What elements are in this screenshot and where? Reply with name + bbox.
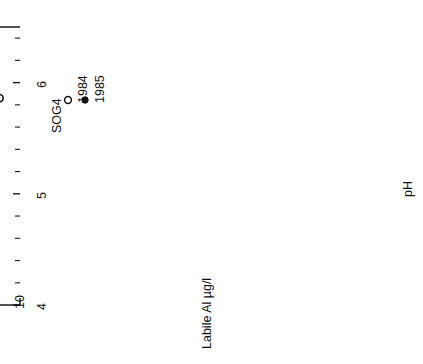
- legend-item-1985: 1985: [80, 75, 108, 105]
- filled-circle-icon: [80, 95, 90, 105]
- figure-page: SOG4 1984 1985 9.1 7.7 Labile Al µg/l pH…: [0, 0, 423, 364]
- series-1984-points: [0, 59, 3, 295]
- ph-axis-ticks: [13, 38, 20, 305]
- ph-tick-label: 5: [32, 192, 50, 199]
- ph-tick-label: 4: [32, 303, 50, 310]
- x-axis-title: pH: [398, 181, 416, 197]
- ph-tick-label: 6: [32, 81, 50, 88]
- rotated-figure: SOG4 1984 1985 9.1 7.7 Labile Al µg/l pH…: [0, 0, 423, 364]
- al-tick-label: 10: [10, 295, 28, 309]
- plot-axes: [0, 27, 20, 305]
- y-axis-title: Labile Al µg/l: [197, 278, 215, 349]
- open-circle-icon: [63, 95, 73, 105]
